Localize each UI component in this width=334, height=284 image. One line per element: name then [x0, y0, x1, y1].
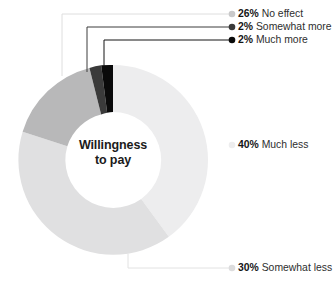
legend-dot-much-less [229, 142, 236, 149]
legend-label-no-effect[interactable]: 26% No effect [238, 9, 303, 19]
legend-label-somewhat-more[interactable]: 2% Somewhat more [238, 22, 332, 32]
legend-text-no-effect: No effect [262, 8, 303, 19]
donut-slice-no-effect[interactable] [23, 68, 102, 146]
legend-value-much-more: 2% [238, 34, 253, 45]
legend-label-somewhat-less[interactable]: 30% Somewhat less [238, 263, 332, 273]
legend-value-much-less: 40% [238, 139, 259, 150]
legend-text-much-less: Much less [262, 139, 309, 150]
legend-text-somewhat-more: Somewhat more [256, 21, 332, 32]
legend-value-no-effect: 26% [238, 8, 259, 19]
donut-chart-figure: Willingness to pay 26% No effect 2% Some… [0, 0, 334, 284]
legend-dot-somewhat-less [229, 265, 236, 272]
legend-text-much-more: Much more [256, 34, 308, 45]
legend-dot-no-effect [229, 11, 236, 18]
legend-dot-much-more [229, 37, 236, 44]
legend-value-somewhat-less: 30% [238, 262, 259, 273]
legend-dot-somewhat-more [229, 24, 236, 31]
legend-label-much-less[interactable]: 40% Much less [238, 140, 308, 150]
leader-line-somewhat-less [128, 254, 229, 268]
legend-text-somewhat-less: Somewhat less [262, 262, 332, 273]
donut-slice-somewhat-less[interactable] [18, 132, 168, 255]
legend-label-much-more[interactable]: 2% Much more [238, 35, 308, 45]
legend-value-somewhat-more: 2% [238, 21, 253, 32]
leader-line-much-more [104, 40, 229, 66]
leader-dots [229, 11, 236, 272]
donut-slices [18, 65, 208, 255]
